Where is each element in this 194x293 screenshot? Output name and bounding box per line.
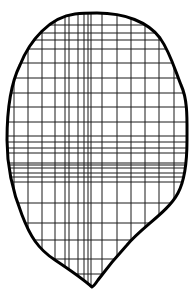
grid-shape-diagram bbox=[0, 0, 194, 293]
